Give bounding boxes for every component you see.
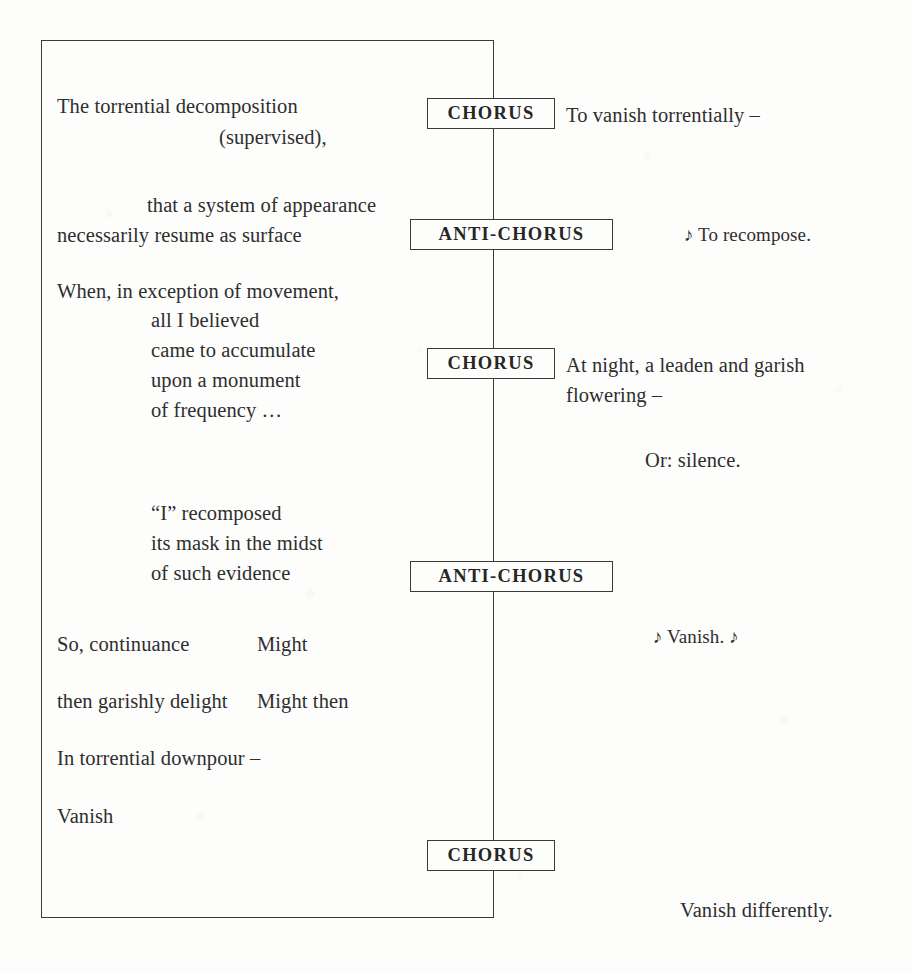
poem-line: The torrential decomposition xyxy=(57,93,298,120)
poem-line: Vanish differently. xyxy=(680,897,833,924)
cue-chorus-3: CHORUS xyxy=(427,840,555,871)
open-rectangle-border xyxy=(41,40,494,918)
poem-line: To vanish torrentially – xyxy=(566,102,760,129)
poem-line: When, in exception of movement, xyxy=(57,278,339,305)
poem-line: all I believed xyxy=(151,307,259,334)
poem-line: Might then xyxy=(257,688,349,715)
poem-line: “I” recomposed xyxy=(151,500,282,527)
poem-line: At night, a leaden and garish xyxy=(566,352,805,379)
poem-line: So, continuance xyxy=(57,631,189,658)
poem-line: its mask in the midst xyxy=(151,530,323,557)
poem-line: that a system of appearance xyxy=(147,192,376,219)
poem-line: came to accumulate xyxy=(151,337,316,364)
poem-line: then garishly delight xyxy=(57,688,228,715)
poem-line: necessarily resume as surface xyxy=(57,222,302,249)
cue-anti-chorus-1: ANTI-CHORUS xyxy=(410,219,613,250)
poem-line-with-music-note: ♪ Vanish. ♪ xyxy=(653,625,739,650)
poem-line: of such evidence xyxy=(151,560,290,587)
poem-line: In torrential downpour – xyxy=(57,745,260,772)
cue-chorus-1: CHORUS xyxy=(427,98,555,129)
poem-line: upon a monument xyxy=(151,367,301,394)
poem-line-with-music-note: ♪ To recompose. xyxy=(684,223,811,248)
poem-line: Or: silence. xyxy=(645,447,741,474)
cue-chorus-2: CHORUS xyxy=(427,348,555,379)
poem-line: of frequency … xyxy=(151,397,282,424)
poem-line: flowering – xyxy=(566,382,662,409)
poem-page: The torrential decomposition (supervised… xyxy=(0,0,912,973)
poem-line: Vanish xyxy=(57,803,113,830)
poem-line: Might xyxy=(257,631,308,658)
cue-anti-chorus-2: ANTI-CHORUS xyxy=(410,561,613,592)
poem-line: (supervised), xyxy=(219,124,327,151)
